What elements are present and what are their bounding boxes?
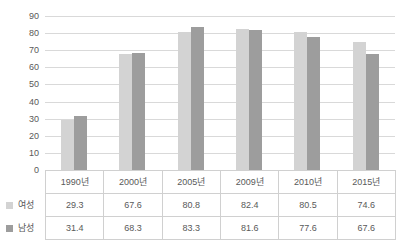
bar-chart-figure: 9080706050403020100 1990년2000년2005년2009년… — [0, 0, 405, 249]
column-header: 2000년 — [104, 171, 162, 194]
bar-female[interactable] — [294, 32, 307, 170]
table-cell-value: 81.6 — [220, 217, 278, 240]
legend-label: 여성 — [18, 201, 34, 210]
table-cell-value: 77.6 — [279, 217, 337, 240]
y-axis-tick-30: 30 — [29, 114, 39, 123]
y-axis-tick-60: 60 — [29, 63, 39, 72]
bar-female[interactable] — [119, 54, 132, 170]
table-row: 남성31.468.383.381.677.667.6 — [0, 217, 396, 240]
legend-label: 남성 — [18, 224, 34, 233]
bar-female[interactable] — [61, 120, 74, 170]
bar-group — [278, 0, 336, 178]
table-cell-value: 83.3 — [162, 217, 220, 240]
bar-male[interactable] — [191, 27, 204, 170]
table-cell-value: 67.6 — [104, 194, 162, 217]
legend-item-female[interactable]: 여성 — [0, 194, 46, 217]
table-corner-cell — [0, 171, 46, 194]
bar-male[interactable] — [74, 116, 87, 170]
y-axis: 9080706050403020100 — [0, 0, 45, 178]
table-row: 여성29.367.680.882.480.574.6 — [0, 194, 396, 217]
table-cell-value: 67.6 — [337, 217, 395, 240]
y-axis-tick-20: 20 — [29, 131, 39, 140]
bar-male[interactable] — [307, 37, 320, 170]
legend-item-male[interactable]: 남성 — [0, 217, 46, 240]
table-cell-value: 31.4 — [46, 217, 104, 240]
table-header-row: 1990년2000년2005년2009년2010년2015년 — [0, 171, 396, 194]
y-axis-tick-10: 10 — [29, 148, 39, 157]
bar-male[interactable] — [366, 54, 379, 170]
table-cell-value: 80.8 — [162, 194, 220, 217]
table-cell-value: 74.6 — [337, 194, 395, 217]
data-table: 1990년2000년2005년2009년2010년2015년여성29.367.6… — [0, 170, 396, 240]
plot-area — [45, 0, 395, 178]
y-axis-tick-40: 40 — [29, 97, 39, 106]
bar-female[interactable] — [178, 32, 191, 170]
bar-group — [45, 0, 103, 178]
y-axis-tick-80: 80 — [29, 29, 39, 38]
bar-group — [220, 0, 278, 178]
bar-groups — [45, 0, 395, 178]
column-header: 2009년 — [220, 171, 278, 194]
column-header: 1990년 — [46, 171, 104, 194]
bar-group — [162, 0, 220, 178]
table-cell-value: 82.4 — [220, 194, 278, 217]
y-axis-tick-70: 70 — [29, 46, 39, 55]
bar-female[interactable] — [236, 29, 249, 170]
bar-group — [103, 0, 161, 178]
column-header: 2010년 — [279, 171, 337, 194]
y-axis-tick-50: 50 — [29, 80, 39, 89]
table-cell-value: 80.5 — [279, 194, 337, 217]
bar-male[interactable] — [249, 30, 262, 170]
table-cell-value: 68.3 — [104, 217, 162, 240]
legend-swatch-icon — [6, 225, 13, 232]
column-header: 2015년 — [337, 171, 395, 194]
y-axis-tick-90: 90 — [29, 12, 39, 21]
bar-female[interactable] — [353, 42, 366, 170]
data-table-body: 1990년2000년2005년2009년2010년2015년여성29.367.6… — [0, 171, 396, 240]
legend-swatch-icon — [6, 202, 13, 209]
bar-group — [337, 0, 395, 178]
column-header: 2005년 — [162, 171, 220, 194]
plot-region: 9080706050403020100 — [0, 0, 405, 178]
bar-male[interactable] — [132, 53, 145, 170]
table-cell-value: 29.3 — [46, 194, 104, 217]
